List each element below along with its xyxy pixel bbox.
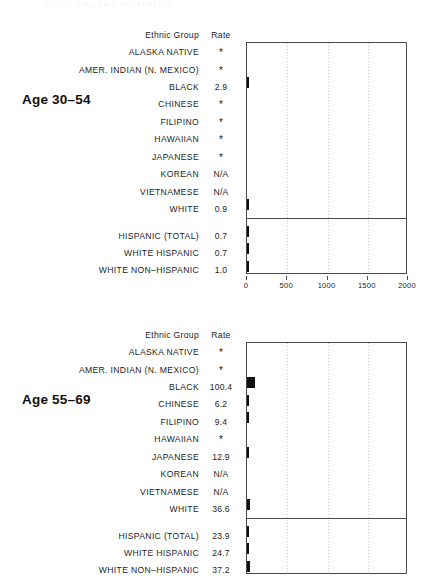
ethnic-group-label: FILIPINO: [160, 117, 199, 127]
table-row: HISPANIC (TOTAL)23.9: [0, 527, 243, 544]
bar: [247, 199, 249, 210]
rate-value: 36.6: [199, 504, 243, 514]
gridline-500: [287, 43, 288, 273]
table-row: WHITE0.9: [0, 200, 243, 217]
rate-value: N/A: [199, 169, 243, 179]
table-row: JAPANESE12.9: [0, 448, 243, 465]
axis-tick-1000: [327, 276, 328, 280]
ethnic-group-label: WHITE HISPANIC: [124, 548, 199, 558]
rate-value: 24.7: [199, 548, 243, 558]
ethnic-group-label: WHITE HISPANIC: [124, 248, 199, 258]
rate-value: 12.9: [199, 452, 243, 462]
table-row: WHITE NON–HISPANIC37.2: [0, 562, 243, 579]
table-row: KOREANN/A: [0, 466, 243, 483]
bar: [247, 77, 249, 88]
chart-page: Lung cancer mortality Age 30–54Ethnic Gr…: [0, 0, 433, 582]
rate-value: *: [199, 118, 243, 128]
ethnic-group-label: HAWAIIAN: [154, 134, 199, 144]
column-header-rate: Rate: [199, 30, 243, 40]
table-row: ALASKA NATIVE*: [0, 343, 243, 360]
table-row: BLACK2.9: [0, 78, 243, 95]
table-row: VIETNAMESEN/A: [0, 183, 243, 200]
plot-area: [246, 42, 407, 274]
axis-tick-500: [286, 276, 287, 280]
ethnic-group-label: ALASKA NATIVE: [129, 347, 199, 357]
table-row: KOREANN/A: [0, 166, 243, 183]
rate-value: 2.9: [199, 82, 243, 92]
ethnic-group-label: WHITE: [170, 204, 199, 214]
rate-value: *: [199, 435, 243, 445]
axis-tick-label: 2000: [398, 281, 416, 290]
table-row: FILIPINO*: [0, 113, 243, 130]
table-row: CHINESE*: [0, 96, 243, 113]
gridline-500: [287, 343, 288, 573]
clipped-header-remnant: Lung cancer mortality: [45, 0, 205, 7]
table-header-row: Ethnic GroupRate: [0, 26, 243, 43]
axis-tick-label: 0: [244, 281, 248, 290]
rate-value: 0.7: [199, 248, 243, 258]
ethnic-group-label: JAPANESE: [152, 452, 199, 462]
bar: [247, 261, 249, 272]
table-row: CHINESE6.2: [0, 396, 243, 413]
rate-value: 1.0: [199, 265, 243, 275]
axis-tick-label: 1000: [318, 281, 336, 290]
ethnic-group-label: AMER. INDIAN (N. MEXICO): [79, 65, 199, 75]
rate-value: N/A: [199, 187, 243, 197]
rate-value: 37.2: [199, 565, 243, 575]
rate-value: *: [199, 153, 243, 163]
rate-value: N/A: [199, 469, 243, 479]
rate-value: 0.7: [199, 231, 243, 241]
gridline-1500: [368, 343, 369, 573]
ethnic-group-label: WHITE NON–HISPANIC: [99, 565, 199, 575]
bar: [247, 526, 249, 537]
column-header-ethnic-group: Ethnic Group: [145, 330, 199, 340]
rate-value: 100.4: [199, 382, 243, 392]
table-row: WHITE HISPANIC0.7: [0, 244, 243, 261]
ethnic-group-rate-table: Ethnic GroupRateALASKA NATIVE*AMER. INDI…: [0, 326, 243, 579]
ethnic-group-label: JAPANESE: [152, 152, 199, 162]
table-row: HISPANIC (TOTAL)0.7: [0, 227, 243, 244]
table-row: HAWAIIAN*: [0, 431, 243, 448]
rate-value: 9.4: [199, 417, 243, 427]
ethnic-group-label: VIETNAMESE: [140, 187, 199, 197]
ethnic-group-label: CHINESE: [158, 99, 199, 109]
table-row: FILIPINO9.4: [0, 413, 243, 430]
axis-tick-1500: [367, 276, 368, 280]
ethnic-group-label: AMER. INDIAN (N. MEXICO): [79, 365, 199, 375]
axis-tick-label: 500: [280, 281, 293, 290]
table-row: WHITE NON–HISPANIC1.0: [0, 262, 243, 279]
table-row: WHITE36.6: [0, 500, 243, 517]
axis-tick-2000: [407, 276, 408, 280]
bar: [247, 561, 250, 572]
ethnic-group-label: WHITE NON–HISPANIC: [99, 265, 199, 275]
ethnic-group-rate-table: Ethnic GroupRateALASKA NATIVE*AMER. INDI…: [0, 26, 243, 279]
plot-area: [246, 342, 407, 574]
bar: [247, 243, 249, 254]
rate-value: *: [199, 66, 243, 76]
rate-value: *: [199, 366, 243, 376]
gridline-1500: [368, 43, 369, 273]
rate-value: *: [199, 100, 243, 110]
table-row: BLACK100.4: [0, 378, 243, 395]
rate-value: N/A: [199, 487, 243, 497]
bar: [247, 543, 249, 554]
rate-value: *: [199, 348, 243, 358]
bar: [247, 447, 249, 458]
table-group-separator-spacer: [0, 218, 243, 227]
table-group-separator-spacer: [0, 518, 243, 527]
gridline-1000: [328, 343, 329, 573]
bar: [247, 499, 250, 510]
x-axis: 0500100015002000: [246, 276, 407, 292]
column-header-ethnic-group: Ethnic Group: [145, 30, 199, 40]
rate-value: *: [199, 48, 243, 58]
bar: [247, 412, 249, 423]
rate-value: 23.9: [199, 531, 243, 541]
table-row: AMER. INDIAN (N. MEXICO)*: [0, 61, 243, 78]
ethnic-group-label: CHINESE: [158, 399, 199, 409]
ethnic-group-label: HISPANIC (TOTAL): [118, 231, 199, 241]
table-row: VIETNAMESEN/A: [0, 483, 243, 500]
ethnic-group-label: FILIPINO: [160, 417, 199, 427]
table-row: HAWAIIAN*: [0, 131, 243, 148]
column-header-rate: Rate: [199, 330, 243, 340]
ethnic-group-label: WHITE: [170, 504, 199, 514]
